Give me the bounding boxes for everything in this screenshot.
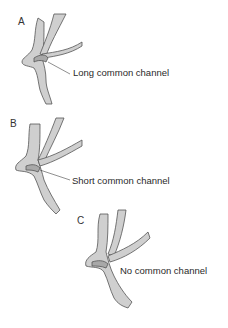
panel-b-drawing [16,118,82,214]
panel-letter-a: A [18,16,25,27]
panel-c-drawing [86,210,150,308]
panel-a-label: Long common channel [73,67,169,78]
panel-a-drawing [22,14,82,104]
panel-letter-b: B [10,118,17,129]
panel-b-label: Short common channel [72,175,170,186]
panel-letter-c: C [77,215,84,226]
panel-c-label: No common channel [120,265,207,276]
diagram-canvas [0,0,228,328]
